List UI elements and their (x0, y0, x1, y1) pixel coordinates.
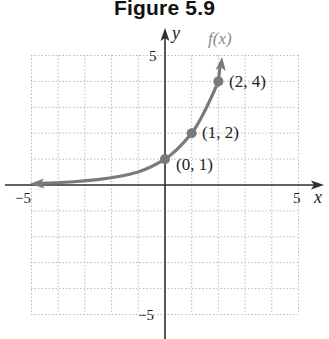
x-min-tick-label: −5 (15, 190, 31, 206)
point-label-2-4: (2, 4) (229, 72, 266, 91)
y-max-tick-label: 5 (149, 48, 157, 64)
point-0-1 (160, 154, 170, 164)
x-max-tick-label: 5 (293, 190, 301, 206)
point-label-0-1: (0, 1) (176, 155, 213, 174)
chart-plot: (0, 1) (1, 2) (2, 4) y x f(x) 5 −5 −5 5 (0, 0, 329, 339)
y-axis-label: y (170, 23, 180, 43)
point-1-2 (187, 128, 197, 138)
point-label-1-2: (1, 2) (202, 123, 239, 142)
curve-label: f(x) (208, 29, 232, 48)
point-2-4 (213, 76, 223, 86)
x-axis-label: x (313, 187, 322, 207)
y-min-tick-label: −5 (138, 307, 154, 323)
